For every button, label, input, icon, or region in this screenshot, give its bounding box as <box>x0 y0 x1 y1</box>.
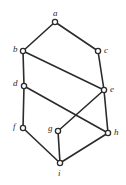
graph-edge-e-g <box>58 90 104 131</box>
vertex-label-a: a <box>53 9 58 18</box>
graph-edge-g-i <box>58 131 60 163</box>
graph-vertex-a <box>52 19 57 24</box>
vertex-label-i: i <box>58 169 61 178</box>
graph-edge-c-e <box>98 51 104 90</box>
graph-vertex-d <box>21 83 26 88</box>
edge-layer <box>23 22 108 163</box>
graph-edge-d-f <box>23 86 24 128</box>
vertex-label-h: h <box>114 128 119 137</box>
graph-edge-a-b <box>23 22 55 51</box>
vertex-label-d: d <box>13 79 18 88</box>
graph-vertex-g <box>55 128 60 133</box>
graph-edge-b-e <box>23 51 104 90</box>
graph-vertex-h <box>105 130 110 135</box>
vertex-label-g: g <box>48 124 53 133</box>
graph-vertex-e <box>101 87 106 92</box>
vertex-label-e: e <box>110 85 114 94</box>
graph-edge-b-d <box>23 51 24 86</box>
graph-diagram: abcdefghi <box>0 0 126 185</box>
vertex-label-f: f <box>13 122 16 131</box>
graph-vertex-b <box>20 48 25 53</box>
graph-canvas <box>0 0 126 185</box>
graph-edge-a-c <box>55 22 98 51</box>
graph-edge-e-h <box>104 90 108 133</box>
graph-edge-f-i <box>23 128 60 163</box>
graph-edge-h-i <box>60 133 108 163</box>
graph-vertex-c <box>95 48 100 53</box>
graph-vertex-f <box>20 125 25 130</box>
vertex-label-c: c <box>104 46 108 55</box>
graph-vertex-i <box>57 160 62 165</box>
vertex-label-b: b <box>13 45 18 54</box>
graph-edge-d-h <box>24 86 108 133</box>
